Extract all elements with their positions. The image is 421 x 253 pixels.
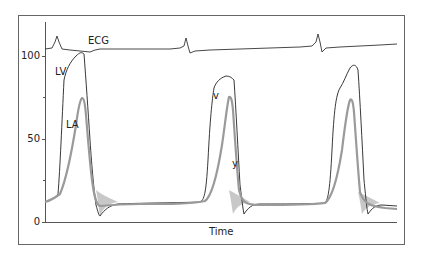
x-axis-label: Time xyxy=(209,227,233,237)
y-tick-0: 0 xyxy=(18,217,40,227)
v-wave-label: v xyxy=(213,91,219,101)
shaded-region-1 xyxy=(96,190,118,216)
y-tick-100: 100 xyxy=(18,51,40,61)
la-label: LA xyxy=(66,120,79,130)
lv-label: LV xyxy=(55,67,66,77)
y-tick-50: 50 xyxy=(18,134,40,144)
pressure-chart xyxy=(0,0,421,253)
ecg-label: ECG xyxy=(88,36,109,46)
chart-container: 100 50 0 ECG LV LA v y Time xyxy=(0,0,421,253)
y-descent-label: y xyxy=(232,159,238,169)
